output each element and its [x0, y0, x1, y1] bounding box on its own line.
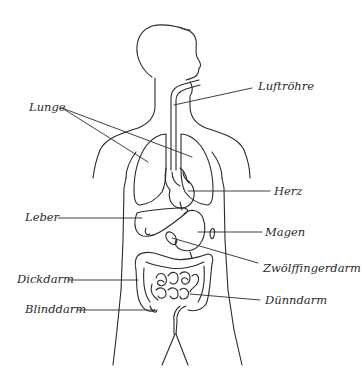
label-herz: Herz [274, 186, 302, 198]
body-outline-drawing [0, 0, 364, 392]
lungs-drawing [134, 134, 213, 205]
label-dickdarm: Dickdarm [17, 274, 74, 286]
large-intestine-drawing [135, 252, 213, 334]
label-lunge: Lunge [29, 102, 66, 114]
leader-line-lunge-right [62, 108, 192, 157]
leader-lines [58, 88, 270, 310]
label-luftroehre: Luftröhre [258, 81, 314, 93]
label-leber: Leber [25, 212, 59, 224]
anatomy-diagram: Lunge Luftröhre Herz Leber Magen Zwölffi… [0, 0, 364, 392]
label-zwoelffingerdarm: Zwölffingerdarm [263, 263, 361, 275]
label-blinddarm: Blinddarm [25, 304, 86, 316]
leader-line-luftroehre [174, 88, 252, 105]
leader-line-lunge-left [62, 108, 148, 162]
small-intestine-drawing [151, 272, 198, 300]
label-magen: Magen [265, 227, 305, 239]
label-duenndarm: Dünndarm [265, 295, 327, 307]
liver-drawing [135, 202, 188, 236]
head-outline [137, 25, 201, 80]
trachea-drawing [171, 80, 200, 170]
duodenum-drawing [166, 232, 192, 258]
